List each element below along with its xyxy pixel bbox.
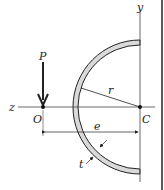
y-axis-label: y (136, 1, 144, 14)
origin-label: O (33, 113, 42, 126)
z-axis-label: z (8, 101, 15, 114)
point-o (41, 105, 45, 109)
diagram-canvas: y z P O C r e t (0, 0, 164, 190)
radius-label: r (108, 84, 114, 97)
thickness-arrow-outer (100, 140, 107, 147)
thickness-label: t (79, 158, 84, 171)
center-label: C (142, 113, 151, 126)
thickness-arrow-inner (86, 157, 93, 164)
load-label: P (38, 50, 47, 63)
point-c (138, 105, 142, 109)
eccentricity-label: e (94, 120, 101, 133)
